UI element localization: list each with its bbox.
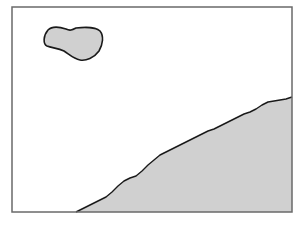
diagram-canvas — [0, 0, 303, 227]
